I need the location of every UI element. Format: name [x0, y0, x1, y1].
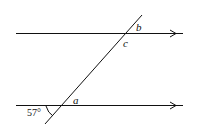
transversal-line [45, 15, 142, 124]
diagram: b c a 57° [0, 0, 198, 132]
label-c: c [123, 38, 128, 49]
angle-arc-icon [46, 106, 53, 116]
label-b: b [136, 22, 142, 33]
label-a: a [73, 95, 79, 106]
label-given-angle: 57° [27, 108, 41, 118]
